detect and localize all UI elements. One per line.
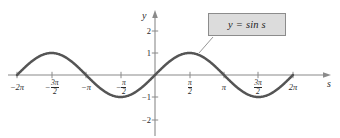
y-tick-label-0: 2 [129, 27, 151, 36]
y-tick-label-3: −2 [129, 116, 151, 125]
equation-callout-text: y = sin s [228, 19, 266, 30]
fraction-denominator: 2 [51, 88, 60, 96]
tick-fraction: 3π2 [51, 79, 60, 96]
y-axis-arrowhead [152, 10, 158, 18]
tick-text: −π [81, 82, 91, 92]
x-tick-label-1: −3π2 [37, 79, 67, 96]
y-tick-label-1: 1 [129, 49, 151, 58]
x-axis-arrowhead [323, 72, 331, 78]
tick-text: π [222, 82, 226, 92]
sine-graph-figure: −2π−3π2−π−π2π2π3π22π 21−1−2 y s y = sin … [0, 0, 340, 138]
x-tick-label-5: π [209, 83, 239, 92]
x-tick-label-2: −π [71, 83, 101, 92]
x-axis-name-label: s [327, 79, 331, 89]
x-tick-label-7: 2π [278, 83, 308, 92]
fraction-denominator: 2 [121, 88, 126, 96]
tick-fraction: π2 [121, 79, 126, 96]
x-tick-label-4: π2 [175, 79, 205, 96]
x-axis [8, 72, 331, 78]
plot-canvas [0, 0, 340, 138]
fraction-denominator: 2 [188, 88, 193, 96]
fraction-denominator: 2 [254, 88, 263, 96]
tick-text: −2π [10, 82, 24, 92]
callout-leader-line [199, 37, 213, 53]
x-tick-label-0: −2π [2, 83, 32, 92]
tick-fraction: 3π2 [254, 79, 263, 96]
tick-fraction: π2 [188, 79, 193, 96]
x-tick-label-6: 3π2 [243, 79, 273, 96]
tick-text: 2π [289, 82, 298, 92]
y-axis-name-label: y [142, 11, 146, 21]
equation-callout-box: y = sin s [208, 13, 286, 36]
y-tick-label-2: −1 [129, 93, 151, 102]
